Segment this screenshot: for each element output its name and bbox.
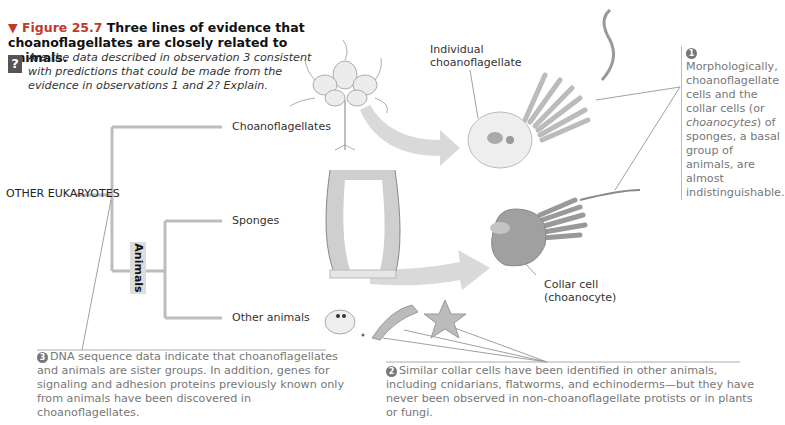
observation-2: 2Similar collar cells have been identifi… [386,364,766,420]
arrow-choano [360,105,460,166]
collar-cell-label-line2: (choanocyte) [544,291,616,304]
sponge-illustration [326,170,400,278]
observation-2-number: 2 [386,366,397,377]
observation-2-text: Similar collar cells have been identifie… [386,364,754,419]
choanoflagellate-colony-illustration [290,40,388,150]
animals-clade-tag: Animals [130,242,146,294]
observation-3: 3DNA sequence data indicate that choanof… [37,350,347,420]
observation-1-italic: choanocytes [686,116,757,129]
observation-1-text-a: Morphologically, choanoflagellate cells … [686,60,779,115]
phylogenetic-tree [76,127,222,318]
collar-cell-illustration [490,190,640,266]
individual-choanoflagellate-illustration [468,10,614,168]
choanoflagellate-label: Individual choanoflagellate [430,43,550,69]
other-animals-illustration [325,300,466,340]
tree-tip-choanoflagellates: Choanoflagellates [232,120,331,133]
tree-tip-sponges: Sponges [232,214,279,227]
observation-3-number: 3 [37,352,48,363]
animals-clade-label: Animals [132,243,145,292]
tree-tip-other-animals: Other animals [232,311,310,324]
tree-root-label: OTHER EUKARYOTES [6,187,120,200]
observation-1-number: 1 [686,48,697,59]
collar-cell-label: Collar cell (choanocyte) [544,278,616,304]
collar-cell-label-line1: Collar cell [544,278,616,291]
observation-1: 1Morphologically, choanoflagellate cells… [681,46,781,200]
observation-3-text: DNA sequence data indicate that choanofl… [37,350,344,419]
